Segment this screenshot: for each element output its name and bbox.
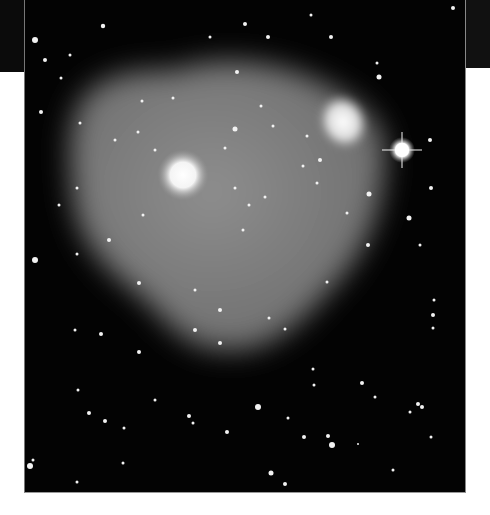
star: [74, 329, 77, 332]
star: [234, 187, 237, 190]
star: [218, 341, 222, 345]
star: [32, 37, 38, 43]
star: [233, 127, 238, 132]
star: [243, 22, 247, 26]
star: [416, 402, 420, 406]
star: [154, 149, 157, 152]
star: [77, 389, 80, 392]
star: [141, 100, 144, 103]
star: [172, 97, 175, 100]
star: [409, 411, 412, 414]
star: [192, 422, 195, 425]
star: [76, 187, 79, 190]
star: [242, 229, 245, 232]
star: [235, 70, 239, 74]
star: [122, 462, 125, 465]
star: [329, 35, 333, 39]
star: [360, 381, 364, 385]
bright-core: [157, 149, 208, 200]
star: [27, 463, 33, 469]
star: [302, 435, 306, 439]
star: [43, 58, 47, 62]
star: [329, 442, 335, 448]
star: [248, 204, 251, 207]
star: [366, 243, 370, 247]
star: [76, 481, 79, 484]
star: [326, 281, 329, 284]
star: [137, 350, 141, 354]
star: [154, 399, 157, 402]
star-field: [25, 0, 466, 493]
star: [346, 212, 349, 215]
star: [269, 471, 274, 476]
star: [60, 77, 63, 80]
star: [193, 328, 197, 332]
star: [284, 328, 287, 331]
star: [313, 384, 316, 387]
star: [142, 214, 145, 217]
star: [420, 405, 424, 409]
star: [326, 434, 330, 438]
star: [101, 24, 105, 28]
star: [76, 253, 79, 256]
star: [419, 244, 422, 247]
star: [187, 414, 191, 418]
star: [137, 281, 141, 285]
star: [32, 459, 35, 462]
star: [407, 216, 412, 221]
star: [260, 105, 263, 108]
star: [429, 186, 433, 190]
star: [103, 419, 107, 423]
star: [376, 62, 379, 65]
star: [318, 158, 322, 162]
star: [225, 430, 229, 434]
star: [367, 192, 372, 197]
star: [451, 6, 455, 10]
star: [32, 257, 38, 263]
star: [107, 238, 111, 242]
star: [432, 327, 435, 330]
star: [209, 36, 212, 39]
star: [224, 147, 227, 150]
star: [272, 125, 275, 128]
star: [39, 110, 43, 114]
star: [87, 411, 91, 415]
adjacent-image-fragment-right: [466, 0, 490, 68]
star: [283, 482, 287, 486]
star: [268, 317, 271, 320]
bright-star-core: [395, 143, 409, 157]
astronomical-photo: [24, 0, 466, 493]
star: [79, 122, 82, 125]
star: [357, 443, 359, 445]
star: [310, 14, 313, 17]
star: [377, 75, 382, 80]
star: [123, 427, 126, 430]
star: [316, 182, 319, 185]
star: [255, 404, 261, 410]
star: [99, 332, 103, 336]
star: [266, 35, 270, 39]
star: [218, 308, 222, 312]
star: [392, 469, 395, 472]
star: [374, 396, 377, 399]
star: [58, 204, 61, 207]
star: [430, 436, 433, 439]
adjacent-image-fragment-left: [0, 0, 24, 72]
star: [306, 135, 309, 138]
star: [431, 313, 435, 317]
star: [194, 289, 197, 292]
star: [114, 139, 117, 142]
star: [428, 138, 432, 142]
star: [69, 54, 72, 57]
star: [264, 196, 267, 199]
star: [287, 417, 290, 420]
star: [137, 131, 140, 134]
star: [312, 368, 315, 371]
star: [302, 165, 305, 168]
star: [433, 299, 436, 302]
